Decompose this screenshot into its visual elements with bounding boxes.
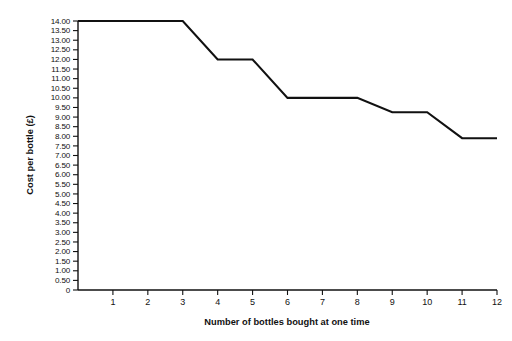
- x-tick-label: 4: [215, 297, 220, 307]
- y-tick-label: 11.00: [51, 74, 70, 83]
- x-axis-ticks: 123456789101112: [110, 290, 502, 307]
- y-tick-label: 10.50: [51, 84, 71, 93]
- x-tick-label: 8: [355, 297, 360, 307]
- y-tick-label: 9.00: [55, 113, 71, 122]
- y-tick-label: 3.00: [55, 228, 71, 237]
- y-tick-label: 13.00: [51, 36, 71, 45]
- x-tick-label: 11: [457, 297, 466, 307]
- y-tick-label: 8.50: [55, 122, 71, 131]
- y-tick-label: 11.50: [51, 65, 70, 74]
- chart-page: 14.0013.5013.0012.5012.0011.5011.0010.50…: [0, 0, 512, 341]
- y-tick-label: 7.50: [55, 142, 71, 151]
- y-axis-title: Cost per bottle (£): [25, 115, 35, 195]
- x-tick-label: 3: [180, 297, 185, 307]
- x-axis-title: Number of bottles bought at one time: [204, 317, 369, 327]
- y-tick-label: 1.00: [55, 266, 71, 275]
- x-tick-label: 7: [320, 297, 325, 307]
- x-tick-label: 2: [145, 297, 150, 307]
- y-tick-label: 12.50: [51, 45, 71, 54]
- y-tick-label: 6.00: [55, 170, 71, 179]
- y-tick-label: 5.00: [55, 190, 71, 199]
- y-tick-label: 2.50: [55, 238, 71, 247]
- y-tick-label: 1.50: [55, 257, 71, 266]
- x-tick-label: 5: [250, 297, 255, 307]
- y-axis-ticks: 14.0013.5013.0012.5012.0011.5011.0010.50…: [51, 17, 78, 295]
- x-tick-label: 1: [110, 297, 115, 307]
- x-tick-label: 12: [492, 297, 502, 307]
- line-chart: 14.0013.5013.0012.5012.0011.5011.0010.50…: [0, 0, 512, 341]
- y-tick-label: 13.50: [51, 26, 71, 35]
- y-tick-label: 0.50: [55, 276, 71, 285]
- y-tick-label: 8.00: [55, 132, 71, 141]
- y-tick-label: 4.00: [55, 209, 71, 218]
- y-tick-label: 4.50: [55, 199, 71, 208]
- y-tick-label: 6.50: [55, 161, 71, 170]
- y-tick-label: 3.50: [55, 218, 71, 227]
- y-tick-label: 14.00: [51, 17, 71, 26]
- x-tick-label: 10: [422, 297, 432, 307]
- y-tick-label: 10.00: [51, 93, 71, 102]
- x-tick-label: 9: [390, 297, 395, 307]
- x-tick-label: 6: [285, 297, 290, 307]
- y-tick-label: 2.00: [55, 247, 71, 256]
- data-series-line: [78, 21, 497, 138]
- y-tick-label: 12.00: [51, 55, 71, 64]
- y-tick-label: 9.50: [55, 103, 71, 112]
- y-tick-label: 5.50: [55, 180, 71, 189]
- y-tick-label: 7.00: [55, 151, 71, 160]
- y-tick-label: 0: [66, 286, 71, 295]
